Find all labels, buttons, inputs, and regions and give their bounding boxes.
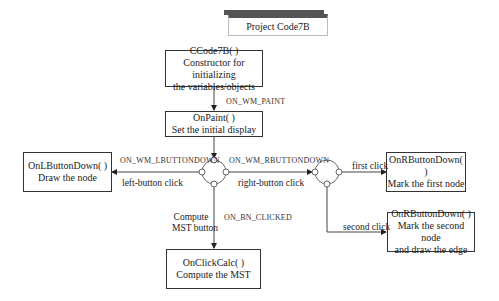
node-rbutton-second-desc-2: and draw the edge (394, 244, 467, 256)
node-constructor[interactable]: CCode7B( ) Constructor for initializing … (165, 50, 263, 87)
label-on-wm-rbuttondown: ON_WM_RBUTTONDOWN (229, 156, 329, 165)
project-title: Project Code7B (228, 14, 328, 36)
node-rbutton-second[interactable]: OnRButtonDown( ) Mark the second node an… (387, 212, 475, 252)
node-constructor-desc-2: the variables/objects (173, 81, 255, 93)
node-rbutton-first[interactable]: OnRButtonDown( ) Mark the first node (386, 152, 466, 192)
node-constructor-name: CCode7B( ) (190, 45, 239, 57)
node-onpaint-name: OnPaint( ) (193, 112, 235, 124)
project-title-text: Project Code7B (246, 21, 310, 32)
label-right-button-click: right-button click (238, 178, 304, 189)
node-rbutton-first-name: OnRButtonDown( ) (387, 154, 465, 178)
label-mst-button: MST button (172, 223, 210, 234)
label-compute: Compute (172, 212, 210, 223)
node-calc[interactable]: OnClickCalc( ) Compute the MST (166, 249, 261, 289)
label-left-button-click: left-button click (122, 178, 183, 189)
label-on-wm-paint: ON_WM_PAINT (226, 97, 285, 106)
label-second-click: second click (343, 222, 390, 233)
node-calc-name: OnClickCalc( ) (183, 257, 244, 269)
node-rbutton-first-desc: Mark the first node (388, 178, 465, 190)
node-calc-desc: Compute the MST (176, 269, 250, 281)
node-constructor-desc-1: Constructor for initializing (166, 57, 262, 81)
node-lbutton-desc: Draw the node (38, 172, 97, 184)
node-onpaint[interactable]: OnPaint( ) Set the initial display (165, 111, 263, 137)
node-lbutton[interactable]: OnLButtonDown( ) Draw the node (23, 152, 112, 192)
node-rbutton-second-name: OnRButtonDown( ) (391, 208, 471, 220)
label-on-bn-clicked: ON_BN_CLICKED (224, 213, 292, 222)
node-rbutton-second-desc-1: Mark the second node (388, 220, 474, 244)
node-lbutton-name: OnLButtonDown( ) (28, 160, 107, 172)
label-on-wm-lbuttondown: ON_WM_LBUTTONDOWN (120, 156, 220, 165)
node-onpaint-desc: Set the initial display (172, 124, 257, 136)
label-compute-mst-button: Compute MST button (172, 212, 210, 234)
label-first-click: first click (352, 161, 388, 172)
